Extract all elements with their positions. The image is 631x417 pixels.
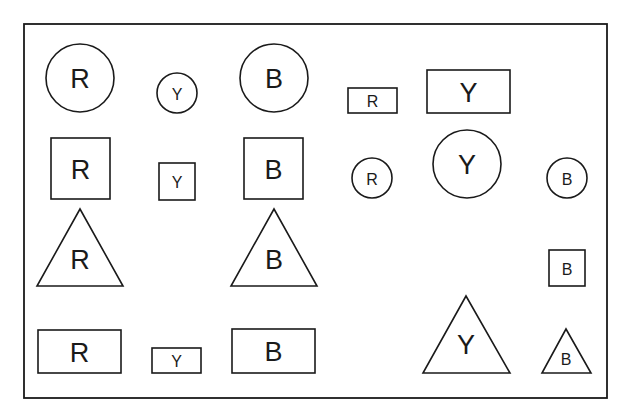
rect-r-small: R [348,88,397,113]
shape-label: Y [457,330,475,360]
shape-label: Y [172,86,183,103]
shape-label: B [265,245,283,275]
shape-label: B [264,337,282,367]
circle-y-small: Y [157,73,197,113]
circle-r-large: R [46,44,114,112]
shape-label: Y [458,150,476,180]
triangle-y-large: Y [423,296,510,373]
rect-y-large: Y [427,70,510,113]
circle-y-large: Y [433,130,501,198]
shapes-diagram: RYBRYRYBRYBRBBRYBYB [0,0,631,417]
shape-label: R [367,93,379,110]
triangle-b-small: B [542,329,591,373]
shape-label: Y [459,78,477,108]
shape-label: R [70,245,90,275]
square-b-small: B [549,250,585,286]
shape-label: B [562,171,573,188]
square-b-large: B [244,138,303,199]
triangle-r-large: R [37,209,123,286]
circle-r-small: R [352,158,392,198]
shape-label: B [265,64,283,94]
circle-b-small: B [547,158,587,198]
shape-label: B [561,351,572,368]
square-y-small: Y [159,163,195,200]
rect-b-large: B [232,329,315,373]
shape-label: R [71,155,91,185]
shape-label: Y [172,174,183,191]
shape-label: Y [171,353,182,370]
shape-label: R [70,64,90,94]
shapes-layer: RYBRYRYBRYBRBBRYBYB [37,44,591,373]
shape-label: R [70,338,90,368]
rect-y-small: Y [152,348,201,373]
shape-label: B [562,261,573,278]
shape-label: B [264,155,282,185]
square-r-large: R [51,138,110,199]
rect-r-large: R [38,330,121,373]
circle-b-large: B [240,44,308,112]
triangle-b-large: B [231,209,317,286]
shape-label: R [366,171,378,188]
